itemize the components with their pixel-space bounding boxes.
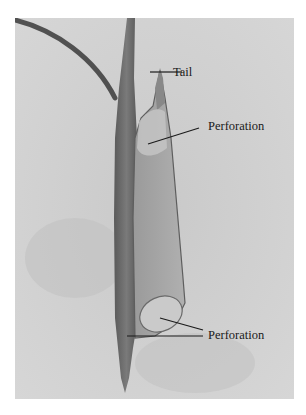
label-tail: Tail <box>173 66 192 79</box>
label-perforation-top: Perforation <box>208 120 264 133</box>
label-perforation-bottom: Perforation <box>208 329 264 342</box>
micrograph: Tail Perforation Perforation <box>15 18 294 399</box>
